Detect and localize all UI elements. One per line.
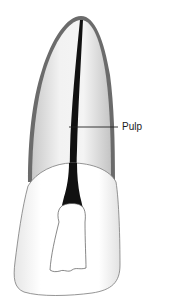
pulp-label: Pulp (122, 122, 142, 132)
tooth-diagram (0, 0, 178, 301)
